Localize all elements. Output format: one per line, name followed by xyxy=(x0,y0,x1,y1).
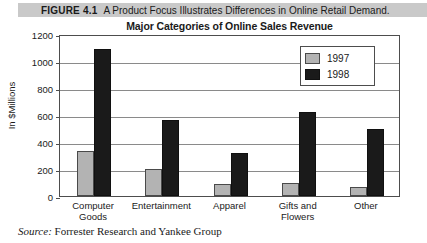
x-axis-label: Apparel xyxy=(195,200,263,211)
bar-1997 xyxy=(214,184,231,196)
bar-group xyxy=(214,36,248,196)
bar-group xyxy=(77,36,111,196)
bar-1998 xyxy=(231,153,248,196)
figure-number-label: FIGURE 4.1 xyxy=(18,5,97,16)
x-axis-label: Entertainment xyxy=(127,200,195,211)
y-tick-label: 800 xyxy=(37,85,53,95)
y-tick-label: 200 xyxy=(37,166,53,176)
chart-title: Major Categories of Online Sales Revenue xyxy=(59,20,400,32)
y-tick-label: 1200 xyxy=(32,31,53,41)
figure-caption-text: A Product Focus Illustrates Differences … xyxy=(97,5,389,16)
legend-swatch-1997 xyxy=(305,53,320,64)
chart-legend: 1997 1998 xyxy=(300,46,375,86)
tick-mark xyxy=(56,198,60,199)
legend-item-1998: 1998 xyxy=(305,66,370,82)
x-axis-label: Other xyxy=(332,200,400,211)
bar-1998 xyxy=(94,49,111,196)
y-tick-label: 0 xyxy=(48,193,53,203)
bar-1997 xyxy=(145,169,162,196)
y-tick-label: 600 xyxy=(37,112,53,122)
bar-1997 xyxy=(282,183,299,197)
source-line: Source: Forrester Research and Yankee Gr… xyxy=(18,225,222,237)
y-tick-label: 400 xyxy=(37,139,53,149)
y-axis-title: In $Millions xyxy=(6,71,17,141)
legend-item-1997: 1997 xyxy=(305,50,370,66)
legend-label-1998: 1998 xyxy=(327,69,349,80)
bar-1998 xyxy=(367,129,384,197)
bar-1998 xyxy=(162,120,179,196)
y-tick-label: 1000 xyxy=(32,58,53,68)
bar-1998 xyxy=(299,112,316,196)
bar-chart: Major Categories of Online Sales Revenue… xyxy=(0,18,427,218)
source-prefix: Source: xyxy=(18,225,52,237)
bar-group xyxy=(145,36,179,196)
x-axis-label: Computer Goods xyxy=(59,200,127,222)
legend-swatch-1998 xyxy=(305,69,320,80)
source-text: Forrester Research and Yankee Group xyxy=(55,225,222,237)
bar-1997 xyxy=(350,187,367,196)
bar-1997 xyxy=(77,151,94,196)
legend-label-1997: 1997 xyxy=(327,53,349,64)
x-axis-label: Gifts and Flowers xyxy=(264,200,332,222)
figure-caption-bar: FIGURE 4.1 A Product Focus Illustrates D… xyxy=(18,3,427,17)
